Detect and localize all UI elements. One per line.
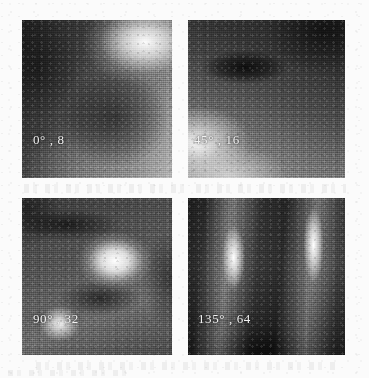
gabor-panel-90-deg-scale-32: 90° , 32: [22, 198, 172, 355]
gabor-response-image: [22, 20, 172, 178]
gabor-response-image: [188, 198, 345, 355]
gabor-panel-0-deg-scale-8: 0° , 8: [22, 20, 172, 178]
gabor-response-figure: 0° , 8 45° , 16 90° , 32 135° , 64: [22, 20, 345, 355]
gabor-panel-45-deg-scale-16: 45° , 16: [188, 20, 345, 178]
gabor-panel-135-deg-scale-64: 135° , 64: [188, 198, 345, 355]
gabor-response-image: [22, 198, 172, 355]
gabor-response-image: [188, 20, 345, 178]
scan-ghost-artifact: [8, 370, 128, 376]
scan-ghost-artifact: [36, 362, 336, 370]
